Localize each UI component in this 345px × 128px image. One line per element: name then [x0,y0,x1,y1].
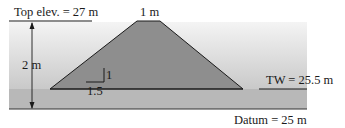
slope-rise-label: 1 [106,68,112,82]
tailwater-label: TW = 25.5 m [266,73,334,87]
top-elevation-label: Top elev. = 27 m [14,5,98,19]
datum-label: Datum = 25 m [234,113,307,127]
height-label: 2 m [22,58,41,72]
dam-diagram: Top elev. = 27 m 1 m 2 m 1 1.5 TW = 25.5… [0,0,345,128]
crest-width-label: 1 m [140,5,159,19]
slope-run-label: 1.5 [87,84,103,98]
tailwater-band [9,89,307,109]
